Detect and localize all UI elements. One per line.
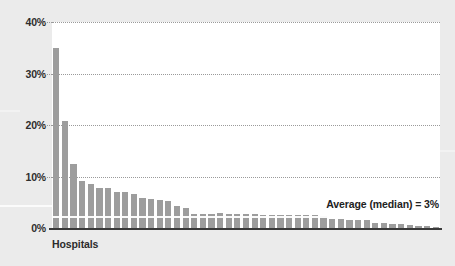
- y-axis-tick-label: 20%: [4, 120, 46, 130]
- bar: [122, 192, 128, 228]
- x-axis-title: Hospitals: [52, 238, 98, 250]
- y-axis-tick-mark: [45, 177, 52, 178]
- y-axis-tick-mark: [45, 22, 52, 23]
- bar: [131, 194, 137, 229]
- average-median-annotation: Average (median) = 3%: [326, 198, 439, 210]
- y-axis-labels: 0%10%20%30%40%: [0, 0, 46, 266]
- bar: [105, 188, 111, 228]
- bar: [88, 184, 94, 228]
- white-streak-artifact-left: [0, 205, 52, 207]
- bar: [53, 48, 59, 228]
- bar: [114, 192, 120, 228]
- bar: [79, 181, 85, 228]
- y-axis-tick-mark: [45, 74, 52, 75]
- x-axis-line: [49, 228, 442, 230]
- bar: [165, 201, 171, 228]
- bar: [96, 188, 102, 228]
- background-streak: [438, 150, 455, 152]
- bar: [338, 219, 344, 228]
- bar: [364, 220, 370, 228]
- bar: [157, 200, 163, 228]
- bar: [346, 220, 352, 228]
- y-axis-tick-label: 40%: [4, 17, 46, 27]
- bar: [70, 164, 76, 228]
- y-axis-tick-mark: [45, 125, 52, 126]
- bar: [148, 199, 154, 228]
- y-axis-tick-label: 30%: [4, 69, 46, 79]
- bar: [62, 121, 68, 228]
- y-axis-tick-label: 0%: [4, 223, 46, 233]
- bar: [139, 198, 145, 228]
- bar: [329, 219, 335, 228]
- chart-figure: 0%10%20%30%40% Average (median) = 3% Hos…: [0, 0, 455, 266]
- white-streak-artifact: [52, 216, 440, 218]
- bar: [355, 220, 361, 228]
- y-axis-tick-label: 10%: [4, 172, 46, 182]
